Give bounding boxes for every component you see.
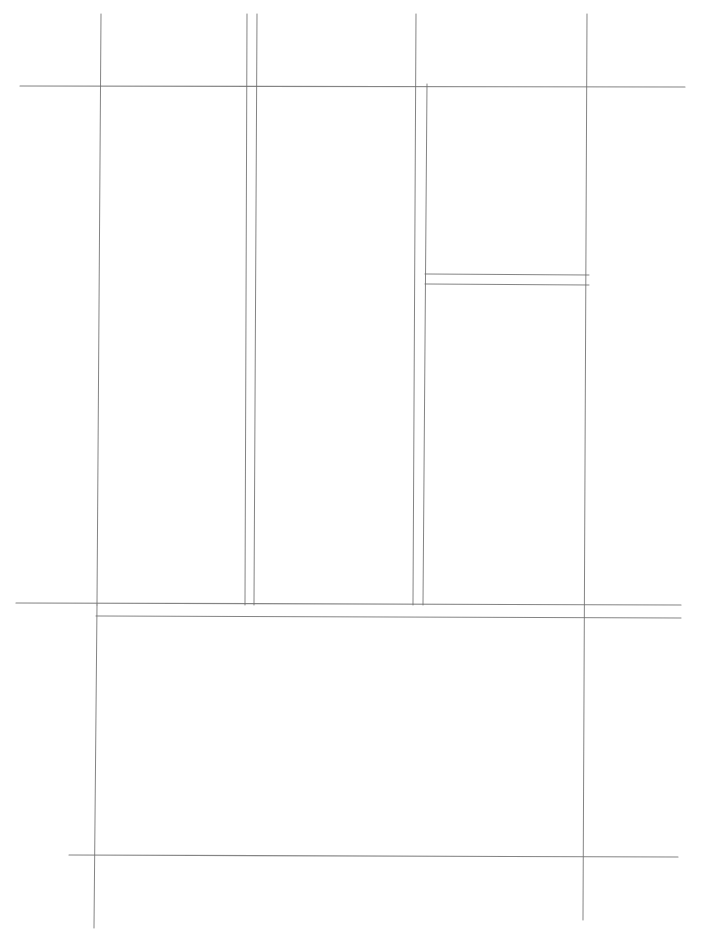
region-column-1: [101, 87, 246, 603]
region-column-2: [257, 87, 414, 603]
layout-regions: [97, 87, 585, 855]
region-column-3-lower: [427, 285, 585, 603]
wireframe-sketch: [0, 0, 703, 950]
region-column-3-upper: [427, 87, 585, 274]
region-lower-panel: [97, 618, 584, 855]
